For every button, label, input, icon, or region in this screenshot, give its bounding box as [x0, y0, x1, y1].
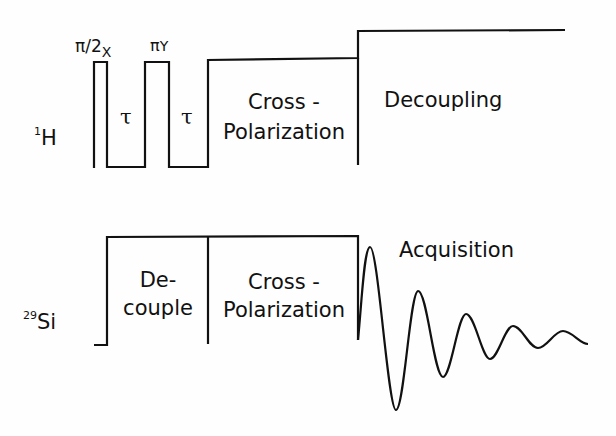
si-decouple-label-line1: De- — [108, 270, 208, 291]
fid-acquisition-signal — [358, 247, 588, 410]
pulse-90x-label: π/2X — [75, 38, 111, 55]
pulse-sequence-lines — [0, 0, 616, 436]
si-cp-label-line2: Polarization — [210, 300, 358, 321]
tau-delay-1-label: τ — [120, 107, 132, 128]
channel-label-29si: 29Si — [23, 312, 56, 333]
tau-delay-2-label: τ — [181, 107, 193, 128]
si-acquisition-label: Acquisition — [399, 240, 514, 261]
si-decouple-label-line2: couple — [108, 298, 208, 319]
pulse-sequence-diagram: 1H 29Si π/2X πY τ τ Cross - Polarization… — [0, 0, 616, 436]
si-cp-label-line1: Cross - — [210, 272, 358, 293]
pulse-180y-label: πY — [150, 38, 168, 54]
channel-label-1h: 1H — [34, 128, 57, 149]
h-cp-label-line1: Cross - — [210, 92, 358, 113]
h-decoupling-label: Decoupling — [384, 90, 502, 111]
h-cp-label-line2: Polarization — [210, 122, 358, 143]
